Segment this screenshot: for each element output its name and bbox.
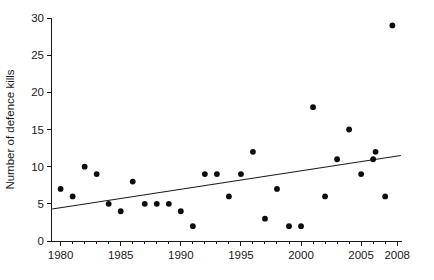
data-point	[226, 194, 232, 200]
data-point	[262, 216, 268, 222]
data-point	[298, 223, 304, 229]
data-point	[238, 171, 244, 177]
scatter-chart: 051015202530 198019851990199520002005200…	[0, 0, 434, 280]
data-point	[130, 179, 136, 185]
data-point	[154, 201, 160, 207]
y-axis: 051015202530	[31, 12, 51, 247]
y-tick-label: 25	[31, 49, 44, 61]
x-tick-label: 1980	[48, 249, 74, 261]
data-point	[346, 127, 352, 133]
data-point	[166, 201, 172, 207]
plot-area: 051015202530 198019851990199520002005200…	[0, 0, 434, 280]
data-point	[334, 156, 340, 162]
data-point	[274, 186, 280, 192]
data-point	[58, 186, 64, 192]
data-point	[358, 171, 364, 177]
axis-labels: Number of defence kills	[4, 69, 16, 189]
data-point	[250, 149, 256, 155]
x-tick-label: 2005	[348, 249, 374, 261]
y-tick-label: 20	[31, 86, 44, 98]
data-point	[118, 208, 124, 214]
y-tick-label: 10	[31, 161, 44, 173]
data-point	[322, 194, 328, 200]
data-point	[389, 23, 395, 29]
y-tick-label: 0	[38, 235, 44, 247]
data-point	[310, 104, 316, 110]
data-point	[178, 208, 184, 214]
trend-line	[52, 156, 401, 210]
data-point	[106, 201, 112, 207]
data-point	[286, 223, 292, 229]
x-axis: 1980198519901995200020052008	[48, 241, 410, 261]
data-point	[70, 194, 76, 200]
data-points	[58, 23, 396, 230]
y-tick-label: 5	[38, 198, 44, 210]
x-tick-label: 2000	[288, 249, 314, 261]
data-point	[82, 164, 88, 170]
y-tick-label: 30	[31, 12, 44, 24]
data-point	[190, 223, 196, 229]
data-point	[202, 171, 208, 177]
x-tick-label: 1985	[108, 249, 134, 261]
x-tick-label: 1995	[228, 249, 254, 261]
data-point	[94, 171, 100, 177]
y-tick-label: 15	[31, 124, 44, 136]
data-point	[142, 201, 148, 207]
x-tick-label: 2008	[384, 249, 410, 261]
data-point	[214, 171, 220, 177]
y-axis-title: Number of defence kills	[4, 69, 16, 189]
data-point	[370, 156, 376, 162]
data-point	[373, 149, 379, 155]
x-tick-label: 1990	[168, 249, 194, 261]
regression-line	[52, 156, 401, 210]
data-point	[382, 194, 388, 200]
